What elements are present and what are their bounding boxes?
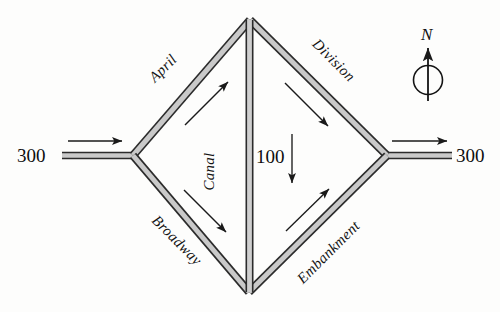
flow-value-east-outbound: 300 xyxy=(456,145,485,167)
road-april xyxy=(133,20,250,156)
compass-rose xyxy=(414,48,443,101)
compass-north-letter: N xyxy=(421,25,432,45)
road-network-diagram: April Division Broadway Embankment Canal… xyxy=(0,0,500,312)
flow-value-canal: 100 xyxy=(256,146,285,168)
flow-value-west-inbound: 300 xyxy=(17,145,46,167)
diagram-canvas xyxy=(0,0,500,312)
road-label-canal: Canal xyxy=(201,152,218,190)
